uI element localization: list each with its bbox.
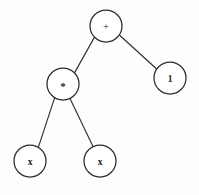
edge-root-to-one xyxy=(120,35,157,68)
edge-times-to-x-right xyxy=(70,98,93,146)
node-x-right-label: x xyxy=(98,157,103,167)
edge-root-to-times xyxy=(75,37,95,73)
node-one[interactable]: 1 xyxy=(154,62,186,94)
node-one-label: 1 xyxy=(168,74,173,84)
node-x-right[interactable]: x xyxy=(84,145,116,177)
node-x-left-label: x xyxy=(28,157,33,167)
node-root[interactable]: + xyxy=(90,10,122,42)
node-root-label: + xyxy=(103,21,109,32)
tree-canvas: + * 1 x x xyxy=(0,0,199,195)
edge-times-to-x-left xyxy=(38,98,54,147)
expression-tree-diagram: + * 1 x x xyxy=(0,0,199,195)
node-times-label: * xyxy=(60,80,66,92)
node-times[interactable]: * xyxy=(47,68,79,100)
node-x-left[interactable]: x xyxy=(14,145,46,177)
